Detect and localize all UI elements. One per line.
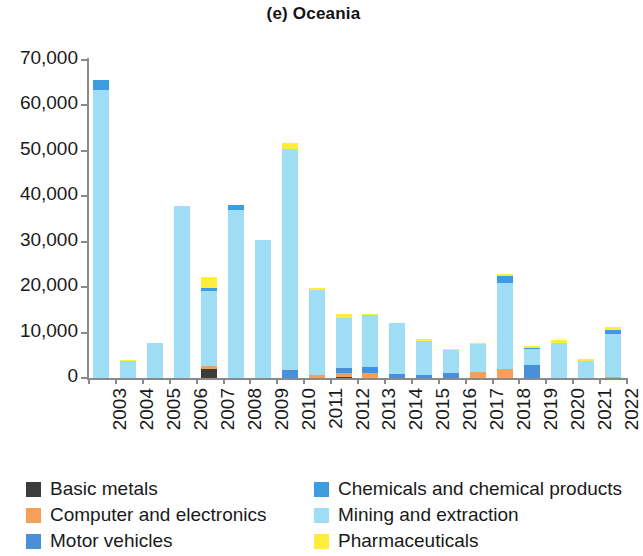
bar-2003 [93,60,109,378]
bar-segment [470,343,486,345]
bar-segment [120,360,136,361]
bar-segment [524,365,540,378]
bar-segment [201,288,217,291]
bar-2021 [578,60,594,378]
x-axis-tick-label: 2017 [486,388,508,430]
x-axis-tick [169,378,171,384]
bar-2010 [282,60,298,378]
bar-segment [497,274,513,276]
legend-swatch-icon [26,508,41,523]
legend-item-label: Motor vehicles [50,530,173,552]
x-axis-tick [249,378,251,384]
bar-segment [578,359,594,361]
bar-segment [497,276,513,283]
bar-segment [93,90,109,378]
bar-2012 [336,60,352,378]
y-axis-tick-label: 50,000 [4,138,78,160]
bar-2019 [524,60,540,378]
x-axis-tick-label: 2021 [594,388,616,430]
bar-2017 [470,60,486,378]
bar-segment [201,291,217,366]
x-axis-tick-label: 2016 [459,388,481,430]
x-axis-tick [357,378,359,384]
bar-segment [416,375,432,378]
bar-2011 [309,60,325,378]
bar-segment [524,348,540,349]
bar-segment [201,366,217,369]
x-axis-tick-label: 2005 [163,388,185,430]
x-axis-tick-label: 2003 [109,388,131,430]
plot-area [88,60,626,378]
legend-item-label: Basic metals [50,478,158,500]
legend-item[interactable]: Computer and electronics [26,502,267,528]
y-axis-tick-label: 0 [4,365,78,387]
legend-item[interactable]: Chemicals and chemical products [314,476,622,502]
bar-segment [605,330,621,335]
x-axis-tick-label: 2008 [244,388,266,430]
bar-segment [605,334,621,376]
legend-swatch-icon [314,534,329,549]
bar-2005 [147,60,163,378]
x-axis-tick-label: 2020 [567,388,589,430]
legend-item-label: Chemicals and chemical products [338,478,622,500]
x-axis-tick [572,378,574,384]
legend-item[interactable]: Mining and extraction [314,502,622,528]
bar-segment [201,369,217,378]
bar-segment [362,367,378,374]
bar-segment [470,372,486,378]
legend-item[interactable]: Motor vehicles [26,528,267,554]
x-axis-tick [196,378,198,384]
legend-swatch-icon [314,508,329,523]
x-axis-tick-label: 2014 [405,388,427,430]
bar-segment [443,350,459,372]
bar-2013 [362,60,378,378]
bar-segment [93,80,109,89]
bar-segment [524,346,540,348]
bar-2009 [255,60,271,378]
legend-swatch-icon [26,482,41,497]
x-axis-tick-label: 2012 [352,388,374,430]
y-axis-tick-label: 10,000 [4,320,78,342]
bar-segment [389,374,405,378]
bar-segment [551,340,567,343]
bar-segment [605,377,621,378]
bar-segment [416,341,432,375]
legend-item-label: Pharmaceuticals [338,530,478,552]
x-axis-tick [411,378,413,384]
x-axis-tick-label: 2007 [217,388,239,430]
legend-swatch-icon [26,534,41,549]
bar-segment [443,349,459,350]
x-axis-tick [599,378,601,384]
x-axis-tick [438,378,440,384]
bar-2014 [389,60,405,378]
x-axis-tick [330,378,332,384]
y-axis-tick-label: 60,000 [4,92,78,114]
bar-segment [282,149,298,371]
x-axis-tick [492,378,494,384]
x-axis-tick-label: 2018 [513,388,535,430]
legend-item[interactable]: Basic metals [26,476,267,502]
legend-item[interactable]: Pharmaceuticals [314,528,622,554]
x-axis-tick [518,378,520,384]
page-title: (e) Oceania [0,4,627,24]
x-axis-tick [276,378,278,384]
x-axis-tick-label: 2004 [136,388,158,430]
x-axis-tick-label: 2013 [378,388,400,430]
x-axis-tick [465,378,467,384]
legend-column-left: Basic metalsComputer and electronicsMoto… [26,476,267,554]
x-axis-tick-label: 2010 [298,388,320,430]
legend-column-right: Chemicals and chemical productsMining an… [314,476,622,554]
legend-swatch-icon [314,482,329,497]
bar-segment [578,361,594,378]
legend-item-label: Computer and electronics [50,504,267,526]
x-axis-tick [88,378,90,384]
x-axis-tick [384,378,386,384]
x-axis-tick-label: 2009 [271,388,293,430]
x-axis-tick [626,378,628,384]
x-axis-tick [142,378,144,384]
bar-segment [362,314,378,316]
bar-segment [605,327,621,330]
y-axis-tick-label: 20,000 [4,274,78,296]
bar-segment [120,361,136,378]
bar-segment [228,210,244,378]
